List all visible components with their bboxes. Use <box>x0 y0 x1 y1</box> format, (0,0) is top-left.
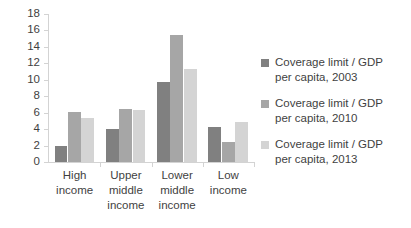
y-axis-tick-mark <box>44 129 48 130</box>
x-axis-category-label-line: income <box>49 183 100 198</box>
x-axis-category-label-line: Lower <box>152 168 203 183</box>
x-axis-category-label: Uppermiddleincome <box>100 168 151 213</box>
y-axis-tick-label: 6 <box>34 107 40 119</box>
x-axis-category-label-line: income <box>152 198 203 213</box>
x-axis-category-label-line: High <box>49 168 100 183</box>
y-axis-tick-label: 16 <box>27 25 40 37</box>
plot-area: 024681012141618 HighincomeUppermiddleinc… <box>0 0 258 228</box>
y-axis-tick-mark <box>44 146 48 147</box>
y-axis-tick-label: 12 <box>27 58 40 70</box>
legend-item[interactable]: Coverage limit / GDP per capita, 2013 <box>261 137 409 167</box>
y-axis-tick-mark <box>44 113 48 114</box>
bar <box>222 142 235 162</box>
bar <box>157 82 170 162</box>
y-axis-tick-label: 14 <box>27 41 40 53</box>
x-axis-category-separator <box>100 162 101 167</box>
y-axis-tick-label: 4 <box>34 123 40 135</box>
x-axis-category-label-line: income <box>203 183 254 198</box>
x-axis-category-label-line: income <box>100 198 151 213</box>
bar <box>235 122 248 162</box>
y-axis-tick-mark <box>44 80 48 81</box>
bar <box>170 35 183 162</box>
bar <box>133 110 146 162</box>
y-axis-tick-mark <box>44 162 48 163</box>
y-axis-tick-label: 0 <box>34 156 40 168</box>
x-axis-category-separator <box>152 162 153 167</box>
y-axis-tick-mark <box>44 14 48 15</box>
y-axis-tick-label: 2 <box>34 140 40 152</box>
x-axis-category-label: Highincome <box>49 168 100 198</box>
bar-chart: 024681012141618 HighincomeUppermiddleinc… <box>0 0 411 228</box>
bar <box>208 127 221 162</box>
y-axis-tick-label: 10 <box>27 74 40 86</box>
legend-swatch-icon <box>261 141 269 149</box>
x-axis-category-label-line: Upper <box>100 168 151 183</box>
x-axis-category-label: Lowermiddleincome <box>152 168 203 213</box>
legend-label: Coverage limit / GDP per capita, 2010 <box>275 96 383 126</box>
legend-swatch-icon <box>261 59 269 67</box>
x-axis-category-label-line: Low <box>203 168 254 183</box>
chart-legend: Coverage limit / GDP per capita, 2003Cov… <box>261 55 409 178</box>
y-axis-tick-mark <box>44 96 48 97</box>
y-axis-tick-label: 18 <box>27 8 40 20</box>
legend-item[interactable]: Coverage limit / GDP per capita, 2010 <box>261 96 409 126</box>
y-axis-tick-mark <box>44 63 48 64</box>
bar <box>106 129 119 162</box>
y-axis-tick-mark <box>44 47 48 48</box>
x-axis-category-label-line: middle <box>100 183 151 198</box>
bar <box>119 109 132 162</box>
bar <box>184 69 197 162</box>
x-axis-category-labels: HighincomeUppermiddleincomeLowermiddlein… <box>49 168 254 226</box>
legend-label: Coverage limit / GDP per capita, 2013 <box>275 137 383 167</box>
bar <box>55 146 68 162</box>
x-axis-category-separator <box>254 162 255 167</box>
bars-layer <box>49 14 254 162</box>
x-axis-category-label-line: middle <box>152 183 203 198</box>
y-axis-tick-mark <box>44 30 48 31</box>
x-axis-category-label: Lowincome <box>203 168 254 198</box>
bar <box>68 112 81 162</box>
legend-item[interactable]: Coverage limit / GDP per capita, 2003 <box>261 55 409 85</box>
x-axis-category-separator <box>203 162 204 167</box>
legend-swatch-icon <box>261 100 269 108</box>
bar <box>81 118 94 162</box>
legend-label: Coverage limit / GDP per capita, 2003 <box>275 55 383 85</box>
y-axis: 024681012141618 <box>0 0 44 168</box>
y-axis-tick-label: 8 <box>34 90 40 102</box>
